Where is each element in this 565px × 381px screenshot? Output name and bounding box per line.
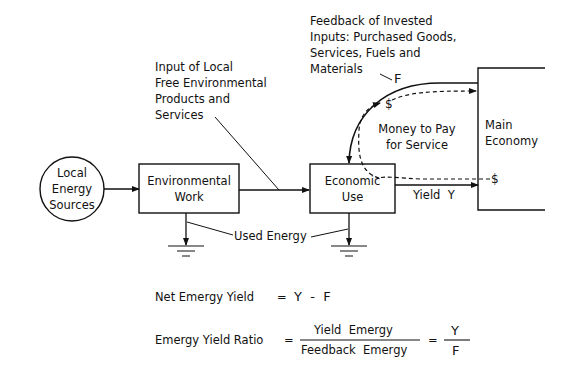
net-emergy-equals: =: [277, 290, 287, 304]
local-energy-sources-label: Local Energy Sources: [40, 165, 104, 213]
label-line: Local: [40, 165, 104, 181]
label-line: Use: [310, 189, 395, 205]
money-annotation: Money to Pay for Service: [373, 121, 461, 153]
annotation-line: for Service: [373, 137, 461, 153]
ratio-den-f: F: [452, 343, 459, 358]
used-energy-pointer-left: [187, 222, 233, 235]
environmental-work-label: Environmental Work: [139, 173, 239, 205]
annotation-line: Input of Local: [155, 59, 267, 75]
ratio-equals: =: [284, 333, 294, 347]
label-line: Economic: [310, 173, 395, 189]
main-economy-label: Main Economy: [485, 117, 538, 149]
label-line: Energy: [40, 181, 104, 197]
label-line: Sources: [40, 197, 104, 213]
label-line: Work: [139, 189, 239, 205]
yield-label: Yield Y: [413, 187, 455, 203]
label-line: Main: [485, 117, 538, 133]
annotation-line: Money to Pay: [373, 121, 461, 137]
ratio-numerator: Yield Emergy: [314, 323, 393, 337]
net-emergy-expr: Y - F: [294, 289, 331, 304]
ratio-denominator: Feedback Emergy: [301, 343, 407, 357]
ratio-num-y: Y: [451, 323, 459, 338]
economic-use-label: Economic Use: [310, 173, 395, 205]
annotation-line: Free Environmental: [155, 75, 267, 91]
used-energy-label: Used Energy: [234, 228, 307, 244]
annotation-line: Feedback of Invested: [310, 13, 456, 29]
annotation-line: Services, Fuels and: [310, 45, 456, 61]
feedback-symbol: F: [394, 71, 401, 87]
dollar-top: $: [385, 96, 393, 112]
money-dashed-to-economy: [392, 91, 476, 100]
annotation-line: Materials: [310, 61, 456, 77]
input-local-annotation: Input of Local Free Environmental Produc…: [155, 59, 267, 123]
annotation-line: Inputs: Purchased Goods,: [310, 29, 456, 45]
label-line: Environmental: [139, 173, 239, 189]
label-line: Economy: [485, 133, 538, 149]
feedback-annotation: Feedback of Invested Inputs: Purchased G…: [310, 13, 456, 77]
annotation-line: Products and: [155, 91, 267, 107]
net-emergy-label: Net Emergy Yield: [155, 290, 254, 304]
annotation-line: Services: [155, 107, 267, 123]
dollar-right: $: [491, 171, 499, 187]
ratio-label: Emergy Yield Ratio: [155, 333, 263, 347]
used-energy-pointer-right: [311, 229, 348, 237]
ratio-equals-2: =: [428, 333, 438, 347]
